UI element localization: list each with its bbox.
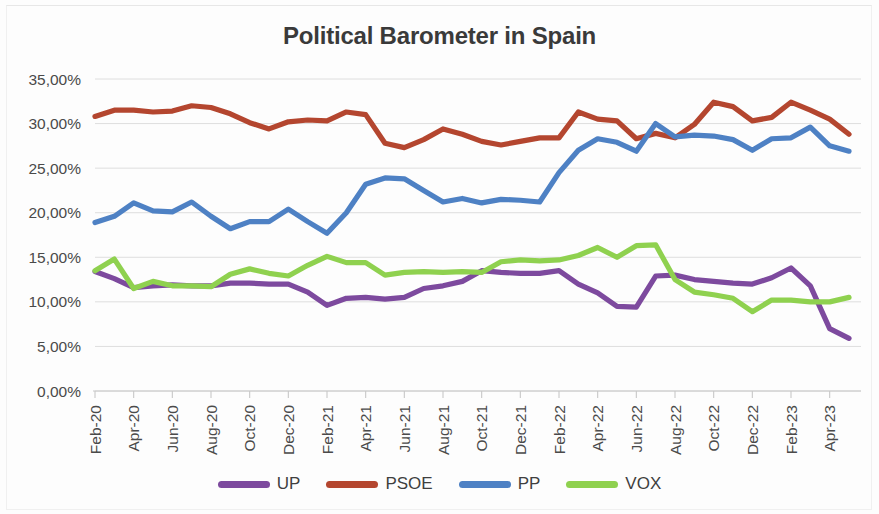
x-axis-tick-label: Jun-22 bbox=[628, 405, 645, 452]
legend-swatch-vox bbox=[566, 481, 618, 488]
chart-container: Political Barometer in Spain 0,00%5,00%1… bbox=[0, 0, 879, 514]
legend-label-pp: PP bbox=[518, 474, 541, 494]
legend-label-up: UP bbox=[277, 474, 301, 494]
x-axis-tick-label: Apr-20 bbox=[125, 405, 142, 452]
y-axis-tick-label: 15,00% bbox=[28, 249, 81, 266]
x-axis-tick-label: Feb-23 bbox=[783, 405, 800, 454]
plot-svg: 0,00%5,00%10,00%15,00%20,00%25,00%30,00%… bbox=[0, 0, 879, 514]
legend-swatch-psoe bbox=[326, 481, 378, 488]
y-axis-tick-label: 35,00% bbox=[28, 71, 81, 88]
series-group bbox=[95, 102, 849, 338]
tickmarks-group bbox=[93, 391, 861, 398]
x-axis-tick-label: Feb-22 bbox=[551, 405, 568, 454]
x-axis-tick-label: Dec-21 bbox=[512, 405, 529, 455]
x-axis-tick-label: Jun-20 bbox=[164, 405, 181, 453]
x-axis-tick-label: Feb-20 bbox=[87, 405, 104, 454]
legend-item-psoe[interactable]: PSOE bbox=[326, 474, 432, 494]
y-axis-tick-label: 30,00% bbox=[28, 115, 81, 132]
chart-legend: UPPSOEPPVOX bbox=[0, 474, 879, 494]
x-axis-tick-label: Jun-21 bbox=[396, 405, 413, 452]
y-axis-labels-group: 0,00%5,00%10,00%15,00%20,00%25,00%30,00%… bbox=[28, 71, 81, 400]
x-axis-tick-label: Dec-22 bbox=[744, 405, 761, 455]
legend-item-pp[interactable]: PP bbox=[459, 474, 541, 494]
legend-swatch-pp bbox=[459, 481, 511, 488]
x-axis-tick-label: Aug-20 bbox=[203, 405, 220, 455]
x-axis-tick-label: Oct-21 bbox=[473, 405, 490, 452]
x-axis-tick-label: Feb-21 bbox=[319, 405, 336, 454]
gridlines-group bbox=[95, 79, 861, 391]
x-axis-tick-label: Oct-20 bbox=[241, 405, 258, 452]
legend-item-up[interactable]: UP bbox=[218, 474, 301, 494]
legend-swatch-up bbox=[218, 481, 270, 488]
y-axis-tick-label: 20,00% bbox=[28, 204, 81, 221]
x-axis-labels-group: Feb-20Apr-20Jun-20Aug-20Oct-20Dec-20Feb-… bbox=[87, 405, 839, 455]
legend-label-vox: VOX bbox=[625, 474, 661, 494]
y-axis-tick-label: 0,00% bbox=[37, 383, 81, 400]
x-axis-tick-label: Apr-22 bbox=[589, 405, 606, 452]
y-axis-tick-label: 25,00% bbox=[28, 160, 81, 177]
legend-label-psoe: PSOE bbox=[385, 474, 432, 494]
plot-area: 0,00%5,00%10,00%15,00%20,00%25,00%30,00%… bbox=[0, 0, 879, 514]
x-axis-tick-label: Aug-21 bbox=[435, 405, 452, 455]
x-axis-tick-label: Aug-22 bbox=[667, 405, 684, 455]
y-axis-tick-label: 10,00% bbox=[28, 293, 81, 310]
x-axis-tick-label: Apr-21 bbox=[357, 405, 374, 452]
x-axis-tick-label: Oct-22 bbox=[705, 405, 722, 452]
legend-item-vox[interactable]: VOX bbox=[566, 474, 661, 494]
x-axis-tick-label: Apr-23 bbox=[821, 405, 838, 452]
x-axis-tick-label: Dec-20 bbox=[280, 405, 297, 455]
y-axis-tick-label: 5,00% bbox=[37, 338, 81, 355]
